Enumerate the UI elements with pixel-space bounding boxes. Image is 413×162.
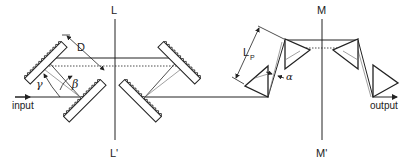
input-label: input [12, 100, 34, 111]
label-gamma: γ [36, 78, 43, 91]
diagram-canvas: L L' M M' input output [0, 0, 413, 162]
label-D: D [77, 41, 85, 53]
prism-1 [245, 66, 268, 97]
prism-4 [373, 65, 398, 97]
output-label: output [370, 100, 398, 111]
axis-L-bottom-label: L' [110, 147, 118, 159]
label-Lp-subscript: P [250, 54, 255, 61]
axis-M-bottom-label: M' [316, 147, 327, 159]
label-alpha: α [286, 71, 293, 82]
label-Lp: L [243, 46, 249, 58]
angle-gamma-arc [44, 74, 60, 97]
label-beta: β [71, 78, 78, 91]
axis-L-top-label: L [111, 4, 117, 16]
grating-4 [158, 40, 202, 84]
grating-1 [23, 40, 67, 84]
prism-2 [285, 39, 310, 69]
optical-diagram: L L' M M' input output [0, 0, 413, 162]
axis-M-top-label: M [317, 4, 326, 16]
prism-3 [333, 39, 358, 69]
